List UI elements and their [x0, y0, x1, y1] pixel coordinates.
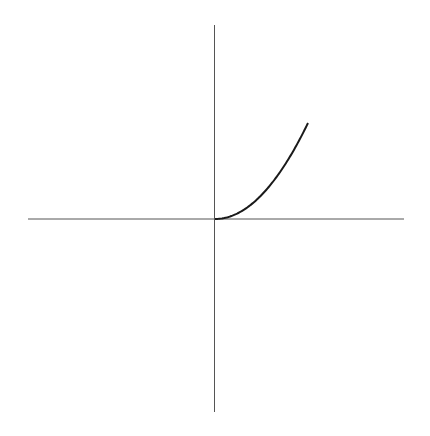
plot-canvas [0, 0, 430, 436]
parabola-curve [215, 123, 308, 219]
